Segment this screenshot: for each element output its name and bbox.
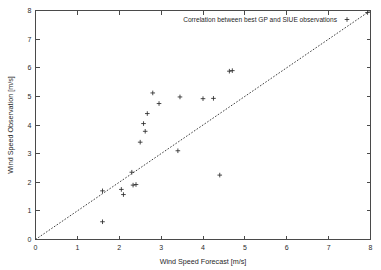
x-tick-label: 1 <box>75 244 79 251</box>
x-axis-title: Wind Speed Forecast [m/s] <box>160 257 247 266</box>
legend-label: Correlation between best GP and SIUE obs… <box>183 16 338 23</box>
x-tick-label: 2 <box>117 244 121 251</box>
y-tick-label: 1 <box>28 207 32 214</box>
x-tick-label: 8 <box>369 244 373 251</box>
y-tick-label: 3 <box>28 150 32 157</box>
y-tick-label: 8 <box>28 7 32 14</box>
x-tick-label: 4 <box>201 244 205 251</box>
y-tick-label: 2 <box>28 179 32 186</box>
figure-background <box>0 0 381 270</box>
y-tick-label: 5 <box>28 93 32 100</box>
legend: Correlation between best GP and SIUE obs… <box>183 16 349 23</box>
y-tick-label: 0 <box>28 236 32 243</box>
y-tick-label: 6 <box>28 64 32 71</box>
x-tick-label: 6 <box>285 244 289 251</box>
x-tick-label: 3 <box>159 244 163 251</box>
x-tick-label: 0 <box>34 244 38 251</box>
y-axis-title: Wind Speed Observation [m/s] <box>6 76 15 173</box>
scatter-plot: 012345678 012345678 Correlation between … <box>0 0 381 270</box>
figure-canvas: 012345678 012345678 Correlation between … <box>0 0 381 270</box>
x-tick-label: 7 <box>327 244 331 251</box>
y-tick-label: 7 <box>28 36 32 43</box>
x-tick-label: 5 <box>243 244 247 251</box>
y-tick-label: 4 <box>28 122 32 129</box>
